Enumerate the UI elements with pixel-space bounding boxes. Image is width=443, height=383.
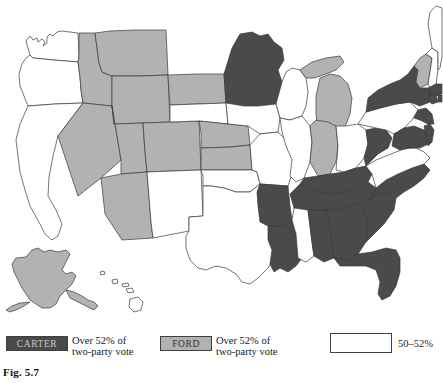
legend-label-ford: Over 52% of two-party vote xyxy=(216,336,278,357)
state-HI-kauai[interactable] xyxy=(100,271,105,275)
state-HI-molokai[interactable] xyxy=(122,283,129,287)
state-AR[interactable] xyxy=(257,184,292,226)
state-OR[interactable] xyxy=(19,55,83,106)
state-AK-panhandle[interactable] xyxy=(66,290,98,310)
state-IN[interactable] xyxy=(310,120,338,176)
legend-item-carter[interactable]: CARTER Over 52% of two-party vote xyxy=(6,336,134,357)
legend-swatch-close xyxy=(330,333,392,353)
legend-swatch-ford: FORD xyxy=(160,336,212,351)
legend-item-ford[interactable]: FORD Over 52% of two-party vote xyxy=(160,336,278,357)
state-MT[interactable] xyxy=(95,30,168,76)
state-HI-oahu[interactable] xyxy=(112,279,118,284)
legend-label-ford-line1: Over 52% of xyxy=(216,336,278,347)
state-OH[interactable] xyxy=(336,124,368,172)
us-election-map xyxy=(0,0,443,330)
state-MN[interactable] xyxy=(224,32,284,106)
map-svg xyxy=(0,0,443,330)
legend-swatch-ford-label: FORD xyxy=(172,339,200,349)
state-AK[interactable] xyxy=(12,248,76,308)
legend-item-close[interactable]: 50–52% xyxy=(330,333,433,353)
map-legend: CARTER Over 52% of two-party vote FORD O… xyxy=(0,333,443,363)
legend-label-ford-line2: two-party vote xyxy=(216,347,278,358)
state-RI[interactable] xyxy=(438,95,442,102)
legend-label-carter: Over 52% of two-party vote xyxy=(72,336,134,357)
state-AZ[interactable] xyxy=(101,172,153,240)
state-KS[interactable] xyxy=(201,145,252,170)
state-AK-aleutians[interactable] xyxy=(6,302,30,312)
legend-label-carter-line1: Over 52% of xyxy=(72,336,134,347)
state-WY[interactable] xyxy=(112,75,170,124)
legend-swatch-carter-label: CARTER xyxy=(17,339,58,349)
state-WI[interactable] xyxy=(276,68,308,120)
legend-swatch-carter: CARTER xyxy=(6,336,68,351)
figure-5-7: CARTER Over 52% of two-party vote FORD O… xyxy=(0,0,443,383)
state-ND[interactable] xyxy=(168,74,226,105)
state-HI-maui[interactable] xyxy=(126,288,134,293)
state-HI-bigisland[interactable] xyxy=(129,297,143,312)
state-CO[interactable] xyxy=(143,121,201,172)
state-MI-upper[interactable] xyxy=(300,56,344,78)
state-WA[interactable] xyxy=(26,31,79,62)
figure-caption: Fig. 5.7 xyxy=(3,366,39,378)
legend-label-close: 50–52% xyxy=(398,333,433,353)
legend-label-carter-line2: two-party vote xyxy=(72,347,134,358)
